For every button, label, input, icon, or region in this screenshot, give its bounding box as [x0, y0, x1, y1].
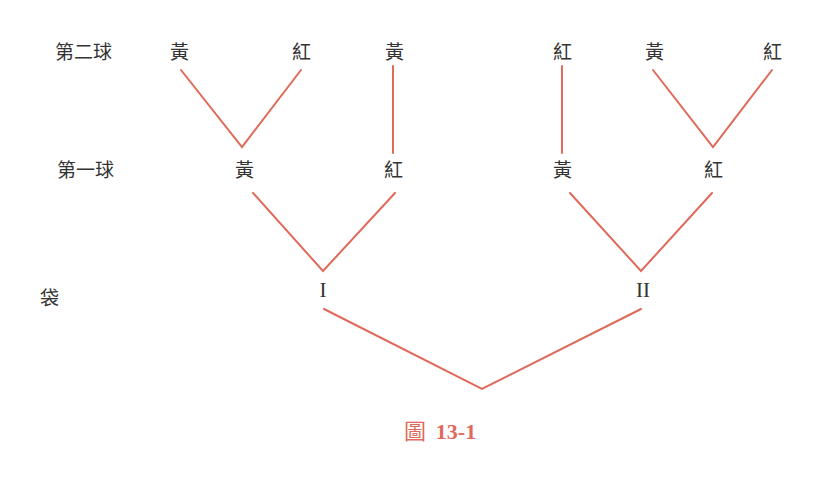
tree-lines [0, 0, 830, 479]
caption-number: 13-1 [436, 419, 476, 444]
row-label-second-ball: 第二球 [55, 43, 112, 62]
node-bag-2: II [636, 280, 650, 301]
node-first-4: 紅 [704, 161, 723, 180]
node-first-2: 紅 [384, 161, 403, 180]
node-second-5: 黃 [645, 43, 664, 62]
node-second-4: 紅 [553, 43, 572, 62]
figure-caption: 圖13-1 [404, 421, 476, 443]
node-second-3: 黃 [385, 43, 404, 62]
node-second-6: 紅 [763, 43, 782, 62]
row-label-bag: 袋 [40, 289, 59, 308]
branch-root-to-bags [324, 309, 641, 389]
branch-bag1-to-first [253, 193, 395, 271]
branch-bag2-to-first [570, 193, 712, 271]
branch-bag1-yellow-to-second [181, 70, 301, 147]
node-bag-1: I [320, 280, 327, 301]
branch-bag2-red-to-second [653, 70, 772, 147]
caption-prefix: 圖 [404, 419, 426, 444]
node-first-1: 黃 [235, 161, 254, 180]
row-label-first-ball: 第一球 [57, 161, 114, 180]
node-first-3: 黃 [553, 161, 572, 180]
node-second-1: 黃 [170, 43, 189, 62]
node-second-2: 紅 [292, 43, 311, 62]
